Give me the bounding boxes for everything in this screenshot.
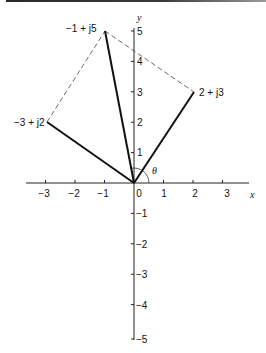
y-tick-label: −5 (136, 334, 148, 345)
y-tick-label: 4 (137, 56, 143, 67)
y-tick-label: 3 (137, 87, 143, 98)
x-tick-label: 0 (136, 188, 142, 199)
vector-minus3-plus-j2 (47, 122, 134, 183)
x-tick-label: −1 (97, 188, 109, 199)
x-tick-label: 1 (161, 188, 167, 199)
x-tick-label: 2 (192, 188, 198, 199)
dashed-edge (105, 31, 194, 92)
y-tick-label: 2 (137, 117, 143, 128)
y-tick-label: −1 (136, 208, 148, 219)
y-tick-labels: 5 4 3 2 1 −1 −2 −3 −4 −5 (136, 26, 148, 345)
complex-plane-diagram: −3 −2 −1 0 1 2 3 x 5 4 3 2 1 −1 −2 −3 −4… (0, 0, 266, 353)
y-tick-label: −3 (136, 269, 148, 280)
y-axis-label: y (136, 12, 142, 23)
x-axis-label: x (249, 189, 255, 200)
dashed-edge (47, 31, 105, 122)
point-label: 2 + j3 (199, 87, 224, 98)
x-tick-label: −2 (68, 188, 80, 199)
vector-2-plus-j3 (134, 92, 194, 183)
point-label: −3 + j2 (14, 117, 45, 128)
x-tick-label: 3 (224, 188, 230, 199)
y-tick-label: −4 (136, 300, 148, 311)
theta-label: θ (152, 165, 157, 176)
x-tick-label: −3 (38, 188, 50, 199)
vector-minus1-plus-j5 (105, 31, 134, 183)
y-tick-label: −2 (136, 239, 148, 250)
point-label: −1 + j5 (66, 23, 97, 34)
y-tick-label: 5 (137, 26, 143, 37)
y-tick-label: 1 (137, 147, 143, 158)
